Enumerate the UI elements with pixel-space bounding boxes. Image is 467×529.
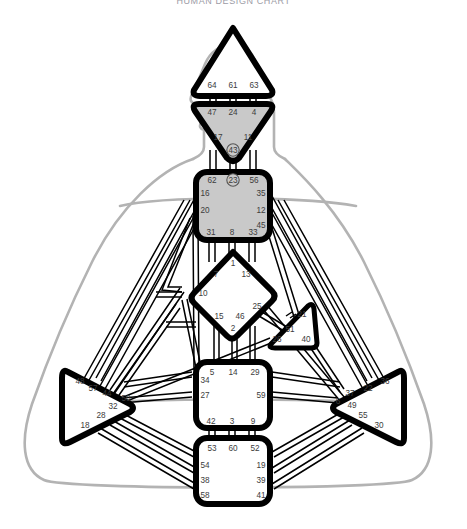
gate-4-label: 4 xyxy=(252,108,257,117)
channel-49-19 xyxy=(272,412,344,457)
gate-37-label: 37 xyxy=(345,389,355,398)
gate-27-label: 27 xyxy=(200,391,210,400)
center-solar-plexus[interactable]: 36 22 37 6 49 55 30 xyxy=(333,371,404,443)
gate-6-label: 6 xyxy=(336,397,341,406)
gate-16-label: 16 xyxy=(200,189,210,198)
gate-45-label: 45 xyxy=(256,221,266,230)
gate-61-label: 61 xyxy=(228,81,238,90)
gate-25-label: 25 xyxy=(252,302,262,311)
gate-8-label: 8 xyxy=(230,228,235,237)
channel-throat-to-solar-outer xyxy=(278,200,386,382)
gate-48-label: 48 xyxy=(75,377,85,386)
center-sacral[interactable]: 5 14 29 34 27 59 42 3 9 xyxy=(196,362,270,428)
gate-28-label: 28 xyxy=(96,411,106,420)
gate-10-label: 10 xyxy=(198,289,208,298)
human-design-chart: HUMAN DESIGN CHART xyxy=(0,0,467,529)
gate-53-label: 53 xyxy=(207,444,217,453)
gate-35-label: 35 xyxy=(256,189,266,198)
gate-43-label: 43 xyxy=(228,146,238,155)
gate-42-label: 42 xyxy=(206,417,216,426)
gate-26-label: 26 xyxy=(272,335,282,344)
gate-23-label: 23 xyxy=(228,176,238,185)
gate-52-label: 52 xyxy=(250,444,260,453)
channel-18-58 xyxy=(98,428,196,489)
gate-56-label: 56 xyxy=(249,176,259,185)
channel-32-54 xyxy=(118,412,196,457)
gate-7-label: 7 xyxy=(214,270,219,279)
gate-19-label: 19 xyxy=(256,461,266,470)
gate-47-label: 47 xyxy=(207,108,217,117)
gate-24-label: 24 xyxy=(228,108,238,117)
center-g[interactable]: 1 7 13 10 25 15 46 2 xyxy=(192,252,275,339)
gate-22-label: 22 xyxy=(363,384,373,393)
gate-14-label: 14 xyxy=(228,368,238,377)
gate-1-label: 1 xyxy=(231,259,236,268)
gate-12-label: 12 xyxy=(256,206,266,215)
gate-21-label: 21 xyxy=(297,310,307,319)
gate-11-label: 11 xyxy=(244,133,253,142)
gate-50-label: 50 xyxy=(121,394,131,403)
gate-39-label: 39 xyxy=(256,476,266,485)
bodygraph-diagram: 64 61 63 47 24 4 17 11 43 62 23 56 16 35… xyxy=(0,0,467,529)
center-ajna[interactable]: 47 24 4 17 11 43 xyxy=(194,104,273,161)
gate-9-label: 9 xyxy=(251,417,256,426)
gate-31-label: 31 xyxy=(206,228,216,237)
gate-15-label: 15 xyxy=(214,312,224,321)
gate-62-label: 62 xyxy=(207,176,217,185)
channel-10-20-left xyxy=(156,292,182,297)
gate-63-label: 63 xyxy=(249,81,259,90)
gate-57-label: 57 xyxy=(88,384,98,393)
gate-58-label: 58 xyxy=(200,491,210,500)
gate-34-label: 34 xyxy=(200,376,210,385)
gate-55-label: 55 xyxy=(358,411,368,420)
center-root[interactable]: 53 60 52 54 19 38 39 58 41 xyxy=(196,438,270,504)
gate-38-label: 38 xyxy=(200,476,210,485)
gate-32-label: 32 xyxy=(108,402,118,411)
gate-30-label: 30 xyxy=(374,421,384,430)
gate-41-label: 41 xyxy=(256,491,266,500)
gate-44-label: 44 xyxy=(102,389,112,398)
gate-20-label: 20 xyxy=(200,206,210,215)
gate-5-label: 5 xyxy=(210,368,215,377)
center-throat[interactable]: 62 23 56 16 35 20 12 45 31 8 33 xyxy=(196,172,270,240)
gate-13-label: 13 xyxy=(241,270,251,279)
gate-59-label: 59 xyxy=(256,391,266,400)
gate-54-label: 54 xyxy=(200,461,210,470)
gate-29-label: 29 xyxy=(250,368,260,377)
gate-36-label: 36 xyxy=(380,377,390,386)
gate-46-label: 46 xyxy=(235,312,245,321)
channel-30-41 xyxy=(272,428,364,489)
gate-60-label: 60 xyxy=(228,444,238,453)
gate-51-label: 51 xyxy=(285,325,295,334)
gate-33-label: 33 xyxy=(248,228,258,237)
channel-45-21 xyxy=(267,228,300,320)
channel-20-57 xyxy=(100,213,201,389)
gate-40-label: 40 xyxy=(301,335,311,344)
gate-64-label: 64 xyxy=(207,81,217,90)
gate-18-label: 18 xyxy=(80,421,90,430)
gate-2-label: 2 xyxy=(231,324,236,333)
gate-17-label: 17 xyxy=(213,133,223,142)
gate-3-label: 3 xyxy=(230,417,235,426)
gate-49-label: 49 xyxy=(347,401,357,410)
